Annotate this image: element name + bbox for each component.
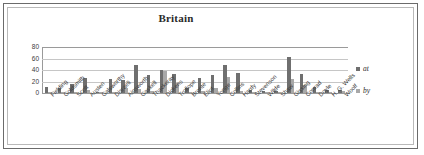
x-axis-tick: Dickens (157, 94, 170, 146)
chart-legend: at by (356, 64, 412, 108)
x-axis-tick: Disraeli (106, 94, 119, 146)
x-axis-tick: Austen (80, 94, 93, 146)
y-axis-tick-label: 0 (21, 90, 39, 96)
x-axis-tick: Hardy (233, 94, 246, 146)
x-axis-tick: Wilde (259, 94, 272, 146)
x-axis-tick: Thackeray (144, 94, 157, 146)
x-axis-tick: Gissing (284, 94, 297, 146)
x-axis-tick: Conrad (297, 94, 310, 146)
x-axis-tick: Stevenson (246, 94, 259, 146)
y-axis-tick-label: 80 (21, 44, 39, 50)
x-axis-tick: Shaw (272, 94, 285, 146)
x-axis-label-group: FieldingGoldsmithScottAustenGalsworthyDi… (42, 94, 348, 146)
legend-label: by (363, 86, 370, 95)
x-axis-tick: Woolf (335, 94, 348, 146)
legend-swatch-icon (356, 89, 360, 93)
legend-swatch-icon (356, 67, 360, 71)
x-axis-tick: Gaskell (131, 94, 144, 146)
bar-pair (42, 47, 55, 93)
x-axis-tick: Ainsworth (119, 94, 132, 146)
x-axis-tick: Goldsmith (55, 94, 68, 146)
y-axis-tick-label: 60 (21, 56, 39, 62)
x-axis-tick: Bronte (182, 94, 195, 146)
x-axis-tick: Eliot (195, 94, 208, 146)
legend-item-by: by (356, 86, 412, 95)
x-axis-tick: Galsworthy (93, 94, 106, 146)
chart-screenshot: Britain 806040200 FieldingGoldsmithScott… (0, 0, 424, 155)
legend-label: at (363, 64, 369, 73)
y-axis-tick-label: 20 (21, 79, 39, 85)
x-axis-tick: Scott (68, 94, 81, 146)
x-axis-tick: Yonge (208, 94, 221, 146)
x-axis-tick: H. G. Wells (323, 94, 336, 146)
x-axis-tick: Fielding (42, 94, 55, 146)
chart-title: Britain (0, 12, 352, 24)
x-axis-tick: Trollope (170, 94, 183, 146)
legend-item-at: at (356, 64, 412, 73)
y-axis-tick-label: 40 (21, 67, 39, 73)
x-axis-tick: Collins (221, 94, 234, 146)
x-axis-tick: Doyle (310, 94, 323, 146)
